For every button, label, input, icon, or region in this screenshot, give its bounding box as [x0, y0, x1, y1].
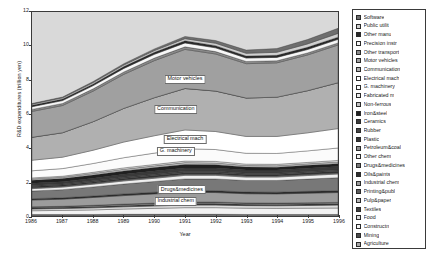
legend-item[interactable]: Precision instr: [356, 39, 423, 48]
legend-swatch-icon: [356, 146, 361, 151]
legend-swatch-icon: [356, 67, 361, 72]
legend-swatch-icon: [356, 119, 361, 124]
legend-label: Public utilit: [364, 23, 389, 28]
legend-item[interactable]: Other transport: [356, 48, 423, 57]
x-axis-tick-labels: 1986198719881989199019911992199319941995…: [31, 219, 339, 229]
legend-item[interactable]: G. machinery: [356, 83, 423, 92]
legend-item[interactable]: Software: [356, 13, 423, 22]
legend-swatch-icon: [356, 172, 361, 177]
legend-swatch-icon: [356, 85, 361, 90]
legend-label: Communication: [364, 67, 401, 72]
legend-item[interactable]: Drugs&medicines: [356, 161, 423, 170]
legend-label: Other chem: [364, 154, 392, 159]
legend-label: Mining: [364, 233, 380, 238]
y-axis-tick-marks: [0, 11, 31, 217]
legend-label: Textiles: [364, 207, 382, 212]
legend-item[interactable]: Food: [356, 214, 423, 223]
legend-label: Ceramics: [364, 119, 386, 124]
legend-item[interactable]: Other chem: [356, 153, 423, 162]
legend-label: Printing&publ: [364, 189, 396, 194]
legend-item[interactable]: Other manu: [356, 30, 423, 39]
legend-swatch-icon: [356, 154, 361, 159]
legend-label: Fabricated m: [364, 93, 395, 98]
band-label: G. machinery: [157, 147, 195, 156]
legend-swatch-icon: [356, 163, 361, 168]
legend-swatch-icon: [356, 41, 361, 46]
legend-label: Precision instr: [364, 41, 397, 46]
legend-swatch-icon: [356, 198, 361, 203]
legend-swatch-icon: [356, 128, 361, 133]
legend-item[interactable]: Plastic: [356, 135, 423, 144]
legend-item[interactable]: Mining: [356, 231, 423, 240]
legend-label: Non-ferrous: [364, 102, 392, 107]
legend-swatch-icon: [356, 181, 361, 186]
legend-label: Motor vehicles: [364, 58, 398, 63]
x-tick-label: 1991: [170, 219, 200, 224]
legend-item[interactable]: Communication: [356, 65, 423, 74]
legend-label: Petroleum&coal: [364, 145, 401, 150]
legend-swatch-icon: [356, 242, 361, 247]
legend-item[interactable]: Printing&publ: [356, 187, 423, 196]
legend-label: Agriculture: [364, 241, 389, 246]
x-tick-label: 1993: [232, 219, 262, 224]
x-tick-label: 1987: [47, 219, 77, 224]
legend-label: Industrial chem: [364, 180, 400, 185]
legend-swatch-icon: [356, 111, 361, 116]
legend-label: G. machinery: [364, 84, 396, 89]
legend-item[interactable]: Motor vehicles: [356, 57, 423, 66]
legend-label: Pulp&paper: [364, 198, 392, 203]
legend-label: Other transport: [364, 50, 400, 55]
legend-swatch-icon: [356, 15, 361, 20]
legend-swatch-icon: [356, 102, 361, 107]
x-tick-label: 1990: [139, 219, 169, 224]
legend-label: Constructn: [364, 224, 390, 229]
legend-label: Oils&paints: [364, 172, 391, 177]
legend-label: Electrical mach: [364, 76, 400, 81]
legend-swatch-icon: [356, 32, 361, 37]
legend-label: Plastic: [364, 137, 380, 142]
x-tick-label: 1986: [16, 219, 46, 224]
legend-swatch-icon: [356, 207, 361, 212]
legend-item[interactable]: Industrial chem: [356, 179, 423, 188]
legend-item[interactable]: Rubber: [356, 126, 423, 135]
legend-swatch-icon: [356, 50, 361, 55]
legend-item[interactable]: Oils&paints: [356, 170, 423, 179]
x-tick-label: 1989: [108, 219, 138, 224]
legend-item[interactable]: Fabricated m: [356, 91, 423, 100]
legend-item[interactable]: Textiles: [356, 205, 423, 214]
x-tick-label: 1988: [78, 219, 108, 224]
legend-item[interactable]: Ceramics: [356, 118, 423, 127]
legend-item[interactable]: Public utilit: [356, 22, 423, 31]
legend-item[interactable]: Electrical mach: [356, 74, 423, 83]
band-label: Industrial chem: [154, 197, 197, 206]
legend-swatch-icon: [356, 24, 361, 29]
legend-item[interactable]: Non-ferrous: [356, 100, 423, 109]
legend-label: Software: [364, 15, 385, 20]
legend-item[interactable]: Iron&steel: [356, 109, 423, 118]
legend-item[interactable]: Petroleum&coal: [356, 144, 423, 153]
band-label: Motor vehicles: [165, 75, 206, 84]
legend-label: Food: [364, 215, 376, 220]
x-tick-label: 1995: [293, 219, 323, 224]
legend-label: Iron&steel: [364, 111, 388, 116]
legend-swatch-icon: [356, 189, 361, 194]
legend-item[interactable]: Constructn: [356, 222, 423, 231]
legend-label: Rubber: [364, 128, 381, 133]
legend-swatch-icon: [356, 215, 361, 220]
legend-item[interactable]: Pulp&paper: [356, 196, 423, 205]
x-tick-label: 1992: [201, 219, 231, 224]
legend-swatch-icon: [356, 224, 361, 229]
legend-swatch-icon: [356, 58, 361, 63]
legend-label: Other manu: [364, 32, 392, 37]
legend-swatch-icon: [356, 233, 361, 238]
x-tick-label: 1994: [262, 219, 292, 224]
legend-item[interactable]: Agriculture: [356, 240, 423, 249]
legend-swatch-icon: [356, 93, 361, 98]
legend-label: Drugs&medicines: [364, 163, 406, 168]
legend: SoftwarePublic utilitOther manuPrecision…: [352, 9, 426, 249]
legend-swatch-icon: [356, 76, 361, 81]
x-axis-title: Year: [31, 231, 339, 237]
band-label: Communication: [154, 105, 197, 114]
band-label: Electrical mach: [164, 135, 207, 144]
x-tick-label: 1996: [324, 219, 354, 224]
